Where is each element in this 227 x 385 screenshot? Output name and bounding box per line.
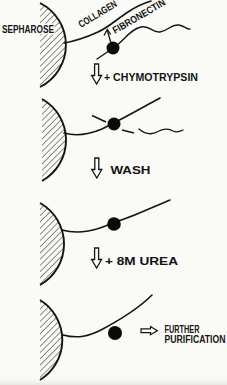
chymotrypsin-step-label: + CHYMOTRYPSIN	[104, 72, 198, 83]
eluted-domain-dot	[108, 326, 122, 340]
wash-step-label: WASH	[111, 165, 151, 176]
figure-canvas: SEPHAROSE COLLAGEN FIBRONECTIN + CHYMOTR…	[0, 0, 227, 385]
scan-edge-shadow	[0, 376, 227, 385]
urea-step-label: + 8M UREA	[105, 256, 178, 267]
purification-scheme-svg: SEPHAROSE COLLAGEN FIBRONECTIN + CHYMOTR…	[0, 0, 227, 385]
sepharose-label: SEPHAROSE	[2, 23, 54, 35]
collagen-binding-domain-dot	[107, 42, 120, 55]
further-purification-label-line2: PURIFICATION	[165, 334, 226, 345]
collagen-binding-domain-dot	[107, 217, 121, 231]
collagen-binding-domain-dot	[108, 118, 121, 131]
